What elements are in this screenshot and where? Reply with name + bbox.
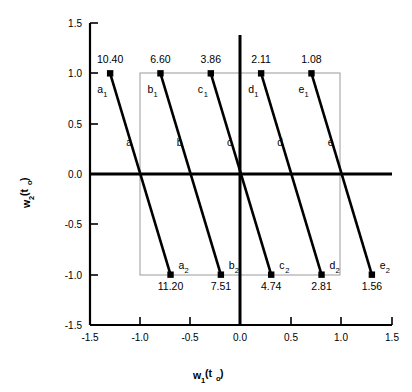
y-tick-label: -1.5 bbox=[65, 320, 83, 331]
marker-top bbox=[258, 70, 264, 76]
bottom-point-label: c bbox=[279, 259, 284, 271]
bottom-point-label-subscript: 2 bbox=[386, 266, 390, 275]
top-value-label: 1.08 bbox=[301, 53, 322, 65]
marker-bottom bbox=[318, 271, 324, 277]
series-mid-label: c bbox=[227, 137, 232, 148]
top-value-label: 10.40 bbox=[97, 53, 123, 65]
marker-bottom bbox=[268, 271, 274, 277]
y-axis-title-paren-open: (t bbox=[18, 189, 30, 196]
bottom-point-label-subscript: 2 bbox=[336, 266, 340, 275]
marker-top bbox=[157, 70, 163, 76]
marker-bottom bbox=[218, 271, 224, 277]
marker-top bbox=[208, 70, 214, 76]
y-tick-label: 0.5 bbox=[68, 119, 82, 130]
marker-top bbox=[107, 70, 113, 76]
top-value-label: 3.86 bbox=[201, 53, 222, 65]
top-point-label: c bbox=[198, 83, 203, 95]
x-axis-title-paren-open: (t bbox=[205, 367, 212, 379]
bottom-value-label: 1.56 bbox=[362, 280, 383, 292]
x-tick-label: -1.0 bbox=[131, 332, 149, 343]
bottom-value-label: 11.20 bbox=[158, 280, 184, 292]
y-tick-label: -0.5 bbox=[65, 219, 83, 230]
series-mid-label: e bbox=[328, 137, 334, 148]
bottom-value-label: 2.81 bbox=[311, 280, 332, 292]
top-point-label-subscript: 1 bbox=[153, 90, 157, 99]
bottom-point-label-subscript: 2 bbox=[235, 266, 239, 275]
top-point-label-subscript: 1 bbox=[254, 90, 258, 99]
series-mid-label: a bbox=[126, 137, 132, 148]
marker-bottom bbox=[369, 271, 375, 277]
y-tick-label: 1.5 bbox=[68, 18, 82, 29]
y-tick-label: 0.0 bbox=[68, 169, 82, 180]
top-point-label-subscript: 1 bbox=[304, 90, 308, 99]
x-tick-label: -0.5 bbox=[181, 332, 199, 343]
top-value-label: 2.11 bbox=[251, 53, 271, 65]
x-tick-label: -1.5 bbox=[81, 332, 99, 343]
bottom-value-label: 4.74 bbox=[261, 280, 282, 292]
x-tick-label: 0.0 bbox=[233, 332, 247, 343]
bottom-value-label: 7.51 bbox=[211, 280, 232, 292]
x-tick-label: 0.5 bbox=[284, 332, 298, 343]
y-tick-label: 1.0 bbox=[68, 68, 82, 79]
top-point-label-subscript: 1 bbox=[103, 90, 107, 99]
y-axis-title-paren-close: ) bbox=[18, 178, 30, 182]
top-point-label-subscript: 1 bbox=[204, 90, 208, 99]
bottom-point-label-subscript: 2 bbox=[185, 266, 189, 275]
x-tick-label: 1.5 bbox=[385, 332, 399, 343]
chart-svg: 1.5 1.0 0.5 0.0 -0.5 -1.0 -1.5 -1.5 -1.0… bbox=[0, 0, 412, 392]
bottom-point-label-subscript: 2 bbox=[285, 266, 289, 275]
x-axis-title-paren-close: ) bbox=[220, 367, 224, 379]
series-mid-label: d bbox=[277, 137, 283, 148]
y-tick-label: -1.0 bbox=[65, 270, 83, 281]
series-mid-label: b bbox=[177, 137, 183, 148]
x-tick-label: 1.0 bbox=[334, 332, 348, 343]
top-value-label: 6.60 bbox=[150, 53, 171, 65]
marker-bottom bbox=[167, 271, 173, 277]
chart-figure: 1.5 1.0 0.5 0.0 -0.5 -1.0 -1.5 -1.5 -1.0… bbox=[0, 0, 412, 392]
marker-top bbox=[308, 70, 314, 76]
